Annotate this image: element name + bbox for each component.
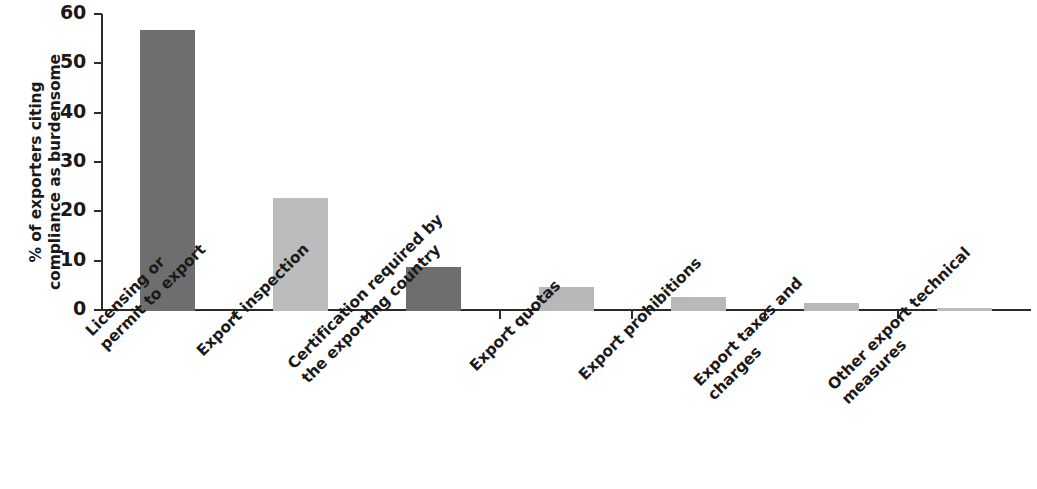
y-axis-tick	[94, 62, 102, 64]
y-axis-tick-label: 10	[8, 248, 86, 270]
y-axis-tick	[94, 112, 102, 114]
y-axis-tick-label: 0	[8, 297, 86, 319]
x-axis-category-label: Other export technicalmeasures	[824, 244, 989, 409]
bar	[671, 297, 726, 311]
bar-chart: % of exporters citing compliance as burd…	[0, 0, 1037, 489]
x-axis-category-label: Export taxes andcharges	[690, 274, 821, 405]
y-axis-tick	[94, 210, 102, 212]
y-axis-tick-label: 60	[8, 1, 86, 23]
y-axis-tick-label: 20	[8, 198, 86, 220]
y-axis-tick	[94, 161, 102, 163]
x-axis-tick	[499, 311, 501, 319]
y-axis-tick-label: 50	[8, 50, 86, 72]
x-axis-category-label: Export prohibitions	[575, 254, 706, 385]
x-axis-category-label: Export quotas	[466, 277, 565, 376]
category-label-line-1: Other export technical	[824, 244, 974, 394]
y-axis-tick-label: 30	[8, 149, 86, 171]
y-axis-tick	[94, 260, 102, 262]
y-axis-tick	[94, 13, 102, 15]
category-label-line-2: measures	[838, 258, 989, 409]
category-label-line-1: Export quotas	[466, 277, 564, 375]
y-axis-tick-label: 40	[8, 100, 86, 122]
category-label-line-1: Export prohibitions	[575, 254, 705, 384]
